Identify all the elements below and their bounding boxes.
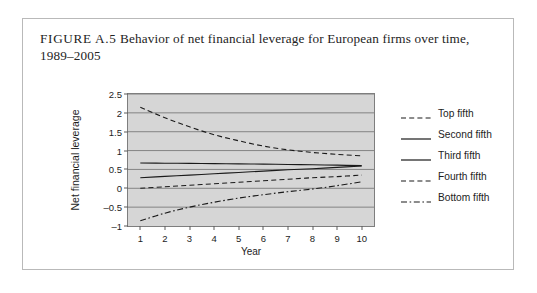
legend-swatch xyxy=(401,109,431,119)
plot-svg xyxy=(128,94,374,226)
y-tick-mark xyxy=(124,150,128,151)
x-tick-mark xyxy=(140,226,141,230)
legend-label: Second fifth xyxy=(438,129,492,140)
series-line-fourth-fifth xyxy=(140,175,361,188)
y-tick-label: –1 xyxy=(111,221,122,232)
x-tick-label: 6 xyxy=(261,233,266,244)
legend-item-bottom-fifth[interactable]: Bottom fifth xyxy=(401,187,521,208)
y-tick-label: 2 xyxy=(117,107,122,118)
x-tick-mark xyxy=(189,226,190,230)
y-tick-mark xyxy=(124,226,128,227)
x-tick-label: 9 xyxy=(334,233,339,244)
x-axis-label: Year xyxy=(241,246,261,257)
x-tick-mark xyxy=(361,226,362,230)
y-tick-label: 1.5 xyxy=(109,126,122,137)
legend-item-fourth-fifth[interactable]: Fourth fifth xyxy=(401,166,521,187)
legend-swatch xyxy=(401,130,431,140)
x-tick-label: 7 xyxy=(285,233,290,244)
x-tick-mark xyxy=(238,226,239,230)
y-tick-mark xyxy=(124,112,128,113)
x-tick-label: 3 xyxy=(187,233,192,244)
legend-item-second-fifth[interactable]: Second fifth xyxy=(401,124,521,145)
legend-swatch xyxy=(401,151,431,161)
y-tick-label: 1 xyxy=(117,145,122,156)
y-tick-label: 2.5 xyxy=(109,89,122,100)
y-tick-label: –0.5 xyxy=(104,202,123,213)
chart-region: Net financial leverage –1–0.500.511.522.… xyxy=(61,81,501,261)
legend-swatch xyxy=(401,193,431,203)
legend-label: Fourth fifth xyxy=(438,171,487,182)
y-axis-label: Net financial leverage xyxy=(69,93,83,227)
x-tick-label: 8 xyxy=(310,233,315,244)
figure-card: FIGURE A.5 Behavior of net financial lev… xyxy=(22,18,514,270)
series-lines xyxy=(140,107,361,221)
x-tick-label: 1 xyxy=(138,233,143,244)
y-tick-mark xyxy=(124,169,128,170)
y-tick-mark xyxy=(124,207,128,208)
legend-label: Third fifth xyxy=(438,150,480,161)
plot-area: –1–0.500.511.522.5 12345678910 Year xyxy=(127,93,375,227)
x-tick-mark xyxy=(214,226,215,230)
x-tick-label: 2 xyxy=(162,233,167,244)
x-tick-label: 5 xyxy=(236,233,241,244)
x-tick-mark xyxy=(164,226,165,230)
x-tick-mark xyxy=(337,226,338,230)
y-tick-label: 0.5 xyxy=(109,164,122,175)
figure-title: FIGURE A.5 Behavior of net financial lev… xyxy=(40,31,485,64)
series-line-bottom-fifth xyxy=(140,182,361,221)
y-tick-mark xyxy=(124,94,128,95)
chart-legend: Top fifthSecond fifthThird fifthFourth f… xyxy=(401,103,521,208)
legend-item-top-fifth[interactable]: Top fifth xyxy=(401,103,521,124)
x-tick-mark xyxy=(263,226,264,230)
x-tick-mark xyxy=(312,226,313,230)
y-tick-label: 0 xyxy=(117,183,122,194)
x-tick-label: 4 xyxy=(211,233,216,244)
figure-number: FIGURE A.5 xyxy=(40,31,117,46)
gridlines xyxy=(128,94,374,207)
legend-swatch xyxy=(401,172,431,182)
legend-label: Top fifth xyxy=(438,108,474,119)
y-tick-mark xyxy=(124,188,128,189)
x-tick-mark xyxy=(287,226,288,230)
legend-item-third-fifth[interactable]: Third fifth xyxy=(401,145,521,166)
y-tick-mark xyxy=(124,131,128,132)
legend-label: Bottom fifth xyxy=(438,192,490,203)
series-line-third-fifth xyxy=(140,166,361,178)
series-line-second-fifth xyxy=(140,163,361,166)
x-tick-label: 10 xyxy=(356,233,367,244)
